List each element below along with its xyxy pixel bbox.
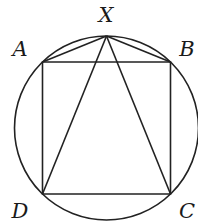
- segment-xc: [107, 36, 171, 194]
- segment-xd: [43, 36, 107, 194]
- label-d: D: [11, 199, 29, 223]
- label-x: X: [97, 3, 115, 27]
- label-a: A: [10, 37, 27, 61]
- label-b: B: [178, 37, 194, 61]
- geometry-diagram: X A B C D: [0, 0, 198, 223]
- square-abcd: [43, 62, 171, 194]
- label-c: C: [179, 199, 195, 223]
